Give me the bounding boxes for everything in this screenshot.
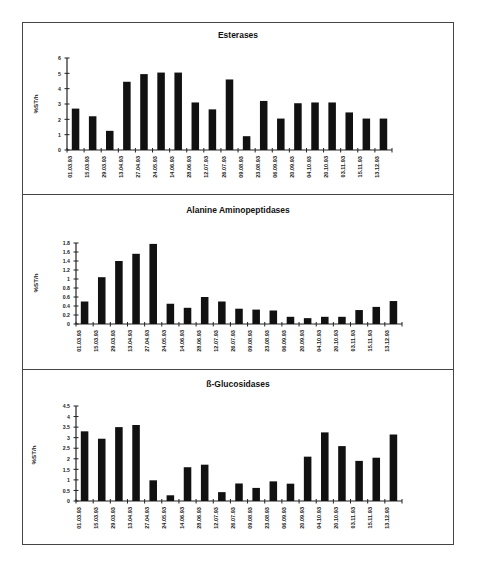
y-tick-label: 1.4 [63, 258, 70, 264]
y-tick-label: 0 [58, 147, 61, 153]
x-tick-label: 27.04.93 [144, 507, 150, 529]
x-tick-label: 20.10.93 [323, 156, 329, 178]
x-tick-label: 13.12.93 [384, 330, 390, 352]
bar [218, 302, 226, 325]
bar [270, 311, 278, 325]
bar [304, 457, 312, 501]
bar [372, 307, 380, 324]
x-tick-label: 12.07.93 [203, 156, 209, 178]
bar [390, 301, 398, 324]
y-tick-label: 0.2 [63, 312, 70, 318]
bar [123, 82, 131, 150]
x-tick-label: 01.03.93 [67, 156, 73, 178]
x-tick-label: 26.07.93 [230, 507, 236, 529]
bar [184, 308, 192, 324]
x-tick-label: 24.05.93 [161, 330, 167, 352]
x-tick-label: 26.07.93 [221, 156, 227, 178]
y-tick-label: 1 [58, 132, 61, 138]
x-tick-label: 20.09.93 [299, 507, 305, 529]
x-tick-label: 29.03.93 [110, 330, 116, 352]
bar [355, 461, 363, 501]
y-tick-label: 4.5 [63, 403, 70, 409]
x-tick-label: 28.06.93 [186, 156, 192, 178]
x-tick-label: 20.10.93 [333, 330, 339, 352]
y-tick-label: 2 [67, 456, 70, 462]
bar [390, 435, 398, 502]
y-tick-label: 4 [67, 414, 70, 420]
bar [192, 102, 200, 150]
bar [328, 102, 336, 150]
x-tick-label: 28.06.93 [196, 507, 202, 529]
bar [98, 439, 106, 501]
y-tick-label: 0.5 [63, 488, 70, 494]
x-tick-label: 15.03.93 [93, 330, 99, 352]
x-tick-label: 23.08.93 [264, 507, 270, 529]
bar [277, 119, 285, 150]
bar [157, 73, 165, 150]
x-tick-label: 20.09.93 [299, 330, 305, 352]
bar [218, 492, 226, 501]
x-tick-label: 27.04.93 [135, 156, 141, 178]
bar [167, 304, 175, 324]
x-tick-label: 01.03.93 [76, 330, 82, 352]
bar [115, 261, 123, 324]
y-tick-label: 4 [58, 86, 61, 92]
x-tick-label: 04.10.93 [316, 330, 322, 352]
x-tick-label: 03.11.93 [350, 330, 356, 351]
bar [270, 481, 278, 501]
bar [226, 79, 234, 150]
bar [355, 310, 363, 324]
y-tick-label: 0 [67, 321, 70, 327]
x-tick-label: 13.04.93 [118, 156, 124, 178]
bar [72, 109, 80, 150]
bar [201, 465, 209, 501]
y-tick-label: 0.4 [63, 303, 70, 309]
bar [363, 119, 371, 150]
x-tick-label: 14.06.93 [179, 507, 185, 529]
y-tick-label: 0 [67, 498, 70, 504]
bar [132, 254, 140, 324]
x-tick-label: 13.04.93 [127, 330, 133, 352]
bar [89, 116, 97, 150]
x-tick-label: 06.09.93 [272, 156, 278, 178]
x-tick-label: 04.10.93 [306, 156, 312, 178]
x-tick-label: 13.04.93 [127, 507, 133, 529]
bar [209, 109, 217, 150]
bar [140, 74, 148, 150]
bar [321, 317, 329, 324]
bar [311, 102, 319, 150]
bar [338, 317, 346, 324]
x-tick-label: 24.05.93 [161, 507, 167, 529]
x-tick-label: 29.03.93 [110, 507, 116, 529]
bar [149, 480, 157, 501]
y-tick-label: 0.6 [63, 294, 70, 300]
x-tick-label: 27.04.93 [144, 330, 150, 352]
y-axis-label: %ST/h [30, 445, 37, 464]
x-tick-label: 03.11.93 [350, 507, 356, 528]
x-tick-label: 13.12.93 [374, 156, 380, 178]
bar [287, 484, 295, 501]
y-tick-label: 1.2 [63, 267, 70, 273]
bar [321, 432, 329, 501]
x-tick-label: 06.09.93 [281, 330, 287, 352]
bar [287, 317, 295, 324]
bar [372, 458, 380, 501]
y-tick-label: 5 [58, 71, 61, 77]
x-tick-label: 14.06.93 [179, 330, 185, 352]
x-tick-label: 14.06.93 [169, 156, 175, 178]
x-tick-label: 03.11.93 [340, 156, 346, 177]
bar [149, 244, 157, 324]
x-tick-label: 20.10.93 [333, 507, 339, 529]
x-tick-label: 15.11.93 [357, 156, 363, 177]
x-tick-label: 26.07.93 [230, 330, 236, 352]
bar [260, 101, 268, 150]
bar [106, 131, 114, 150]
y-tick-label: 1 [67, 477, 70, 483]
x-tick-label: 24.05.93 [152, 156, 158, 178]
bar [252, 488, 260, 501]
y-tick-label: 6 [58, 55, 61, 61]
y-tick-label: 1.5 [63, 467, 70, 473]
x-tick-label: 13.12.93 [384, 507, 390, 529]
x-tick-label: 09.08.93 [238, 156, 244, 178]
bar [235, 309, 243, 324]
